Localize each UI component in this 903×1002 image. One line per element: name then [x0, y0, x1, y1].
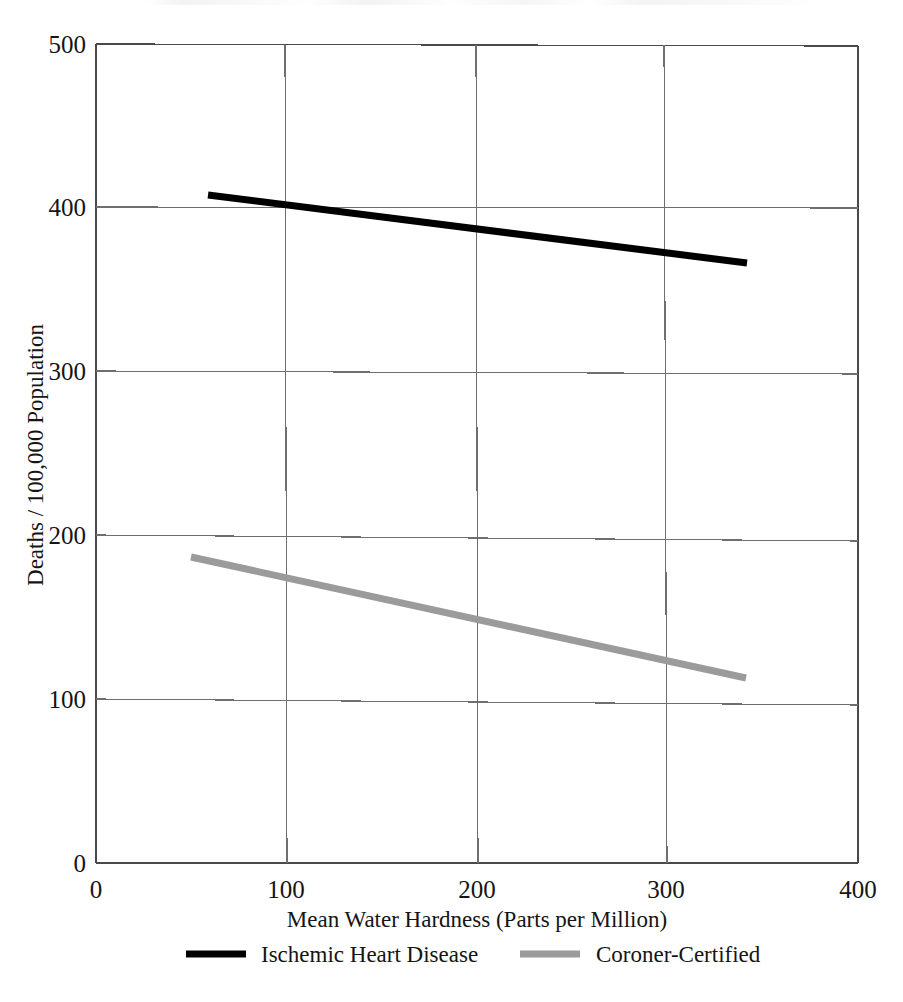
x-tick-100: 100: [267, 876, 305, 903]
gridline-x-300: [664, 45, 667, 863]
legend-label-coroner-certified: Coroner-Certified: [596, 942, 761, 967]
gridline-y-100: [96, 699, 858, 705]
axis-top: [96, 44, 858, 46]
legend-item-ischemic-heart-disease: Ischemic Heart Disease: [186, 942, 478, 967]
chart-legend: Ischemic Heart Disease Coroner-Certified: [186, 942, 761, 967]
y-tick-100: 100: [49, 686, 87, 713]
series-coroner-certified: [191, 557, 746, 678]
y-tick-labels: 0 100 200 300 400 500: [49, 31, 87, 877]
y-tick-400: 400: [49, 194, 87, 221]
y-axis-title: Deaths / 100,000 Population: [23, 324, 48, 586]
gridlines: [96, 45, 858, 863]
line-coroner-certified: [191, 557, 746, 678]
series-ischemic-heart-disease: [208, 195, 747, 263]
x-tick-0: 0: [90, 876, 103, 903]
legend-item-coroner-certified: Coroner-Certified: [520, 942, 761, 967]
x-axis-title: Mean Water Hardness (Parts per Million): [287, 907, 667, 932]
y-tick-300: 300: [49, 358, 87, 385]
x-tick-400: 400: [839, 876, 877, 903]
y-tick-200: 200: [49, 522, 87, 549]
x-tick-labels: 0 100 200 300 400: [90, 876, 877, 903]
gridline-x-100: [285, 45, 287, 863]
x-tick-300: 300: [647, 876, 685, 903]
gridline-x-200: [476, 45, 478, 863]
chart-figure: 0 100 200 300 400 500 0 100 200 300 400 …: [0, 0, 903, 1002]
line-chart: 0 100 200 300 400 500 0 100 200 300 400 …: [0, 0, 903, 1002]
y-tick-500: 500: [49, 31, 87, 58]
y-tick-0: 0: [74, 850, 87, 877]
legend-label-ischemic-heart-disease: Ischemic Heart Disease: [261, 942, 478, 967]
line-ischemic-heart-disease: [208, 195, 747, 263]
gridline-y-400: [96, 207, 858, 208]
x-tick-200: 200: [458, 876, 496, 903]
